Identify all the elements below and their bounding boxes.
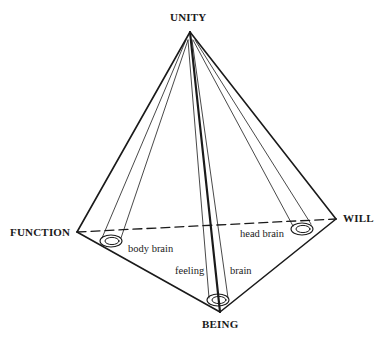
label-head-brain: head brain xyxy=(240,228,284,239)
label-being: BEING xyxy=(202,318,238,330)
edge-apex-will xyxy=(190,32,336,219)
label-unity: UNITY xyxy=(170,11,206,23)
edge-function-will-hidden xyxy=(77,219,336,232)
label-body-brain: body brain xyxy=(128,243,173,254)
tube-center-left xyxy=(188,40,209,298)
tube-body-brain-opening-inner xyxy=(105,237,119,244)
tube-center-right xyxy=(192,40,228,298)
tube-body-brain-right xyxy=(121,40,188,238)
label-function: FUNCTION xyxy=(10,226,70,238)
pyramid-svg xyxy=(0,0,381,339)
tube-head-brain-opening-inner xyxy=(296,225,310,232)
label-will: WILL xyxy=(343,212,374,224)
tube-head-brain-right xyxy=(195,40,311,224)
pyramid-diagram: UNITY FUNCTION WILL BEING body brain hea… xyxy=(0,0,381,339)
label-brain: brain xyxy=(230,265,252,276)
tube-body-brain-left xyxy=(102,40,186,238)
label-feeling: feeling xyxy=(175,265,204,276)
